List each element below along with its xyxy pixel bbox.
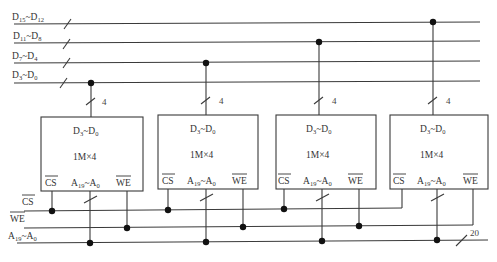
svg-text:1M×4: 1M×4 — [420, 150, 444, 160]
svg-text:1M×4: 1M×4 — [73, 152, 97, 162]
label-d3-d0: D3~D0 — [12, 70, 37, 81]
data-line-d15-d12 — [14, 22, 480, 24]
svg-text:CS: CS — [393, 176, 405, 186]
svg-text:D3~D0: D3~D0 — [420, 124, 445, 135]
data-line-d3-d0 — [14, 81, 480, 83]
data-bus — [14, 19, 480, 88]
svg-text:1M×4: 1M×4 — [190, 150, 214, 160]
svg-text:D3~D0: D3~D0 — [306, 124, 331, 135]
memory-chip-1: D3~D0 1M×4 CS A19~A0 WE — [41, 117, 143, 191]
svg-text:CS: CS — [162, 176, 174, 186]
svg-text:CS: CS — [45, 178, 57, 188]
svg-text:CS: CS — [278, 176, 290, 186]
svg-text:D3~D0: D3~D0 — [190, 124, 215, 135]
we-line — [24, 225, 473, 228]
svg-text:4: 4 — [102, 97, 107, 107]
svg-text:WE: WE — [116, 178, 131, 188]
svg-text:A19~A0: A19~A0 — [71, 178, 100, 189]
svg-text:A19~A0: A19~A0 — [417, 176, 446, 187]
label-d11-d8: D11~D8 — [13, 31, 41, 42]
data-line-d11-d8 — [14, 41, 480, 43]
memory-chip-4: D3~D0 1M×4 CS A19~A0 WE — [390, 115, 488, 189]
svg-text:WE: WE — [463, 176, 478, 186]
svg-text:A19~A0: A19~A0 — [187, 176, 216, 187]
address-label: A19~A0 — [8, 231, 37, 242]
memory-chip-2: D3~D0 1M×4 CS A19~A0 WE — [158, 115, 258, 189]
svg-text:A19~A0: A19~A0 — [303, 176, 332, 187]
we-label: WE — [10, 214, 25, 224]
svg-text:20: 20 — [470, 228, 480, 238]
memory-chip-3: D3~D0 1M×4 CS A19~A0 WE — [276, 115, 376, 189]
memory-expansion-diagram: D15~D12 D11~D8 D7~D4 D3~D0 4 4 4 4 D3~D0… — [0, 0, 497, 262]
svg-text:4: 4 — [446, 96, 451, 106]
data-line-labels: D15~D12 D11~D8 D7~D4 D3~D0 — [12, 12, 44, 81]
cs-label: CS — [22, 197, 34, 207]
svg-text:4: 4 — [219, 96, 224, 106]
label-d7-d4: D7~D4 — [12, 51, 38, 62]
cs-line — [24, 208, 402, 211]
svg-text:WE: WE — [232, 176, 247, 186]
svg-text:D3~D0: D3~D0 — [73, 126, 98, 137]
svg-text:1M×4: 1M×4 — [306, 150, 330, 160]
control-bus: 20 CS WE A19~A0 — [8, 189, 488, 246]
data-line-d7-d4 — [14, 61, 480, 63]
svg-text:4: 4 — [332, 96, 337, 106]
data-taps: 4 4 4 4 — [86, 19, 451, 117]
svg-text:WE: WE — [348, 176, 363, 186]
label-d15-d12: D15~D12 — [12, 12, 44, 23]
